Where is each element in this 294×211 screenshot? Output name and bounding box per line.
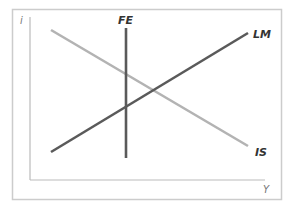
x-axis-label: Y [263,184,270,195]
y-axis-label: i [20,15,23,26]
is-lm-fe-diagram: i Y FE LM IS [0,0,294,211]
lm-label: LM [253,28,271,41]
fe-label: FE [118,14,134,27]
is-curve [51,30,248,146]
is-label: IS [255,146,267,159]
lm-curve [51,33,248,152]
